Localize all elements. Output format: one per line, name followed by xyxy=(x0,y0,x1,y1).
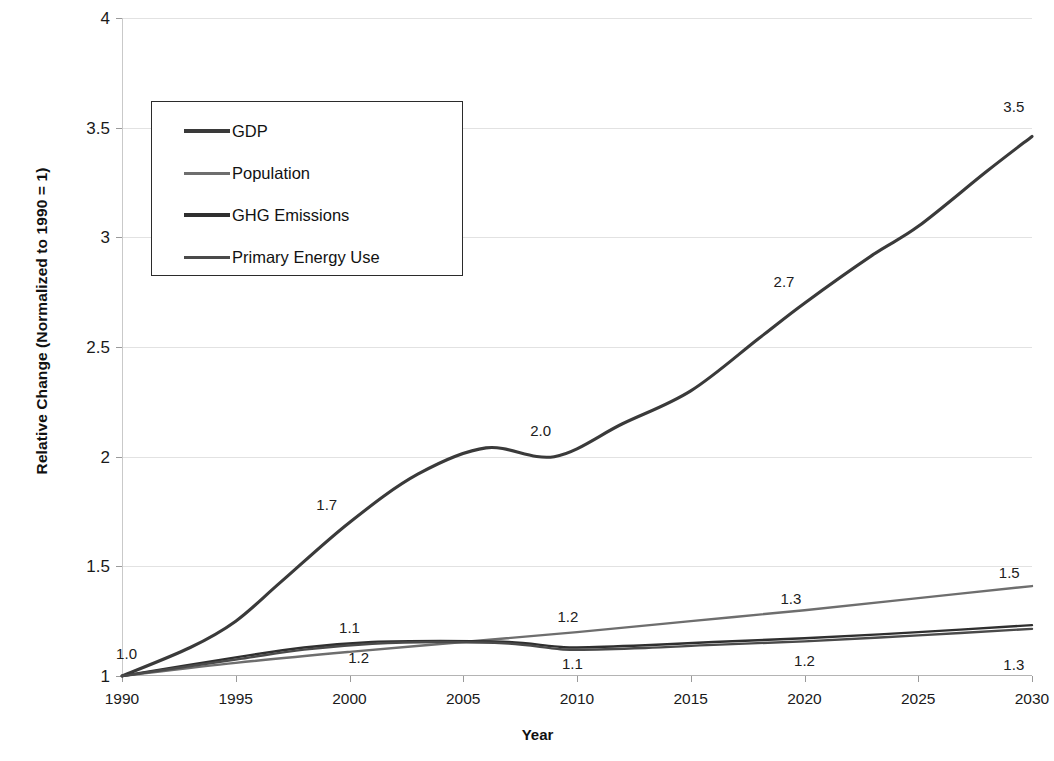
x-tick-mark xyxy=(918,676,919,682)
label-2020-gdp: 2.7 xyxy=(774,273,795,290)
y-tick-label: 2.5 xyxy=(40,339,110,356)
x-tick-label: 2020 xyxy=(765,690,845,708)
y-tick-label: 1.5 xyxy=(40,558,110,575)
legend-label: Primary Energy Use xyxy=(232,248,380,267)
y-tick-label: 2 xyxy=(40,449,110,466)
x-tick-label: 2030 xyxy=(992,690,1054,708)
y-tick-label: 1 xyxy=(40,668,110,685)
y-tick-label: 3 xyxy=(40,229,110,246)
x-tick-label: 2015 xyxy=(651,690,731,708)
legend-swatch-icon xyxy=(184,129,230,133)
legend-item-ghg-emissions[interactable]: GHG Emissions xyxy=(184,204,349,226)
label-2030-lower: 1.3 xyxy=(1003,655,1024,672)
legend: GDPPopulationGHG EmissionsPrimary Energy… xyxy=(151,101,463,276)
label-2000-upper: 1.1 xyxy=(339,618,360,635)
label-2000-gdp: 1.7 xyxy=(316,495,337,512)
x-axis-title: Year xyxy=(0,726,1045,743)
legend-swatch-icon xyxy=(184,256,230,259)
x-tick-label: 1990 xyxy=(82,690,162,708)
legend-swatch-icon xyxy=(184,213,230,217)
x-tick-mark xyxy=(236,676,237,682)
x-tick-mark xyxy=(805,676,806,682)
y-axis-title: Relative Change (Normalized to 1990 = 1) xyxy=(33,111,51,531)
legend-label: Population xyxy=(232,164,310,183)
label-2030-population: 1.5 xyxy=(999,563,1020,580)
y-tick-label: 4 xyxy=(40,10,110,27)
legend-label: GDP xyxy=(232,122,268,141)
x-tick-label: 2000 xyxy=(310,690,390,708)
x-tick-mark xyxy=(1032,676,1033,682)
x-tick-mark xyxy=(463,676,464,682)
x-axis-title-text: Year xyxy=(522,726,554,743)
legend-swatch-icon xyxy=(184,172,230,175)
label-2020-lower: 1.2 xyxy=(794,651,815,668)
label-2000-lower: 1.2 xyxy=(348,649,369,666)
label-2009-gdp: 2.0 xyxy=(530,422,551,439)
legend-item-gdp[interactable]: GDP xyxy=(184,120,268,142)
x-tick-label: 1995 xyxy=(196,690,276,708)
legend-item-primary-energy-use[interactable]: Primary Energy Use xyxy=(184,246,380,268)
label-2010-population: 1.2 xyxy=(557,607,578,624)
label-1990-all: 1.0 xyxy=(116,644,137,661)
label-2010-lower: 1.1 xyxy=(562,655,583,672)
label-2020-population: 1.3 xyxy=(780,590,801,607)
legend-label: GHG Emissions xyxy=(232,206,349,225)
x-tick-mark xyxy=(577,676,578,682)
y-tick-label: 3.5 xyxy=(40,120,110,137)
x-tick-label: 2010 xyxy=(537,690,617,708)
x-tick-label: 2005 xyxy=(423,690,503,708)
label-2030-gdp: 3.5 xyxy=(1003,97,1024,114)
x-tick-mark xyxy=(350,676,351,682)
x-tick-mark xyxy=(691,676,692,682)
legend-item-population[interactable]: Population xyxy=(184,162,310,184)
x-tick-label: 2025 xyxy=(878,690,958,708)
